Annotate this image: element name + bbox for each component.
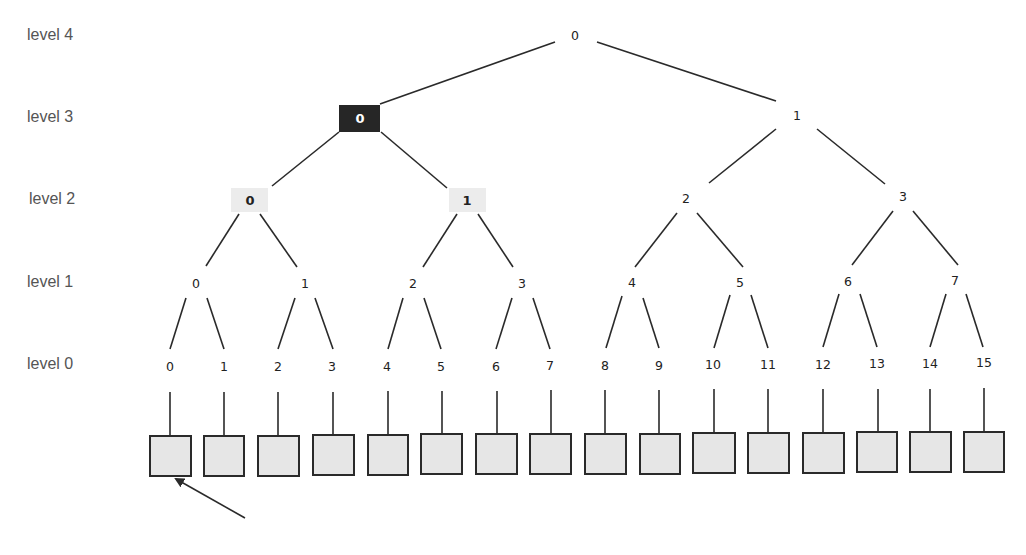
leaf-box-7 — [530, 434, 571, 474]
edge-l4-0-to-l3-0 — [380, 42, 555, 104]
edge-l1-6-to-l0-13 — [860, 294, 877, 347]
tree-node-l1-5: 5 — [736, 275, 744, 290]
tree-node-l0-6: 6 — [492, 359, 500, 374]
edge-l1-2-to-l0-5 — [424, 298, 441, 349]
edge-l3-0-to-l2-1 — [381, 132, 447, 188]
tree-node-l1-0: 0 — [192, 276, 200, 291]
leaf-box-5 — [421, 434, 462, 474]
level-label-0: level 0 — [27, 355, 73, 372]
edge-l2-3-to-l1-7 — [913, 211, 958, 265]
level-3-nodes: 0 1 — [355, 108, 801, 126]
level-4-nodes: 0 — [571, 28, 579, 43]
leaf-box-14 — [910, 432, 951, 472]
tree-node-l0-4: 4 — [383, 359, 391, 374]
leaf-box-8 — [585, 434, 626, 474]
tree-node-l0-11: 11 — [760, 357, 776, 372]
leaf-box-10 — [693, 433, 735, 473]
edge-l4-0-to-l3-1 — [597, 42, 776, 101]
edge-l1-1-to-l0-3 — [315, 298, 333, 349]
leaf-box-3 — [313, 435, 354, 475]
tree-node-l0-8: 8 — [601, 358, 609, 373]
edge-l3-1-to-l2-2 — [709, 129, 776, 183]
leaf-box-11 — [748, 433, 789, 473]
edge-l1-4-to-l0-8 — [606, 296, 622, 348]
tree-node-l0-2: 2 — [274, 359, 282, 374]
tree-node-l0-5: 5 — [437, 359, 445, 374]
edge-l1-1-to-l0-2 — [278, 298, 295, 349]
leaf-box-4 — [368, 435, 408, 475]
tree-node-l0-14: 14 — [922, 356, 938, 371]
edge-l1-2-to-l0-4 — [388, 298, 403, 349]
leaf-box-9 — [640, 434, 680, 474]
tree-diagram: level 4 level 3 level 2 level 1 level 0 — [0, 0, 1026, 555]
edge-l3-0-to-l2-0 — [272, 132, 339, 186]
edge-l1-7-to-l0-15 — [966, 294, 983, 347]
leaf-box-2 — [258, 436, 299, 476]
edge-l2-0-to-l1-0 — [206, 214, 239, 266]
level-label-3: level 3 — [27, 108, 73, 125]
tree-node-l1-4: 4 — [628, 275, 636, 290]
tree-node-l2-0: 0 — [245, 193, 254, 208]
tree-node-l0-0: 0 — [166, 359, 174, 374]
level-labels: level 4 level 3 level 2 level 1 level 0 — [27, 26, 75, 372]
level-1-nodes: 0 1 2 3 4 5 6 7 — [192, 273, 959, 291]
leaf-box-15 — [964, 432, 1004, 472]
level-label-1: level 1 — [27, 273, 73, 290]
tree-node-l2-2: 2 — [682, 191, 690, 206]
level-0-nodes: 0 1 2 3 4 5 6 7 8 9 10 11 12 13 14 15 — [166, 355, 992, 374]
tree-node-l1-6: 6 — [844, 274, 852, 289]
edge-l1-0-to-l0-0 — [170, 298, 186, 349]
tree-node-l1-1: 1 — [301, 276, 309, 291]
tree-node-l2-1: 1 — [462, 193, 471, 208]
level-label-4: level 4 — [27, 26, 73, 43]
edge-l3-1-to-l2-3 — [817, 129, 885, 184]
edge-l2-2-to-l1-5 — [697, 213, 743, 267]
edge-l2-3-to-l1-6 — [852, 211, 893, 265]
edge-l1-7-to-l0-14 — [930, 294, 946, 347]
edge-l1-3-to-l0-7 — [533, 298, 550, 349]
tree-node-l3-0: 0 — [355, 111, 364, 126]
edge-l2-2-to-l1-4 — [635, 213, 677, 267]
tree-node-l1-2: 2 — [409, 276, 417, 291]
edge-l2-1-to-l1-2 — [423, 214, 457, 267]
leaf-box-1 — [204, 436, 244, 476]
leaf-box-13 — [857, 432, 897, 472]
tree-node-l3-1: 1 — [793, 108, 801, 123]
edge-l2-1-to-l1-3 — [478, 214, 513, 267]
tree-edges — [170, 42, 984, 436]
tree-node-l1-3: 3 — [518, 276, 526, 291]
edge-l1-5-to-l0-11 — [751, 295, 768, 348]
leaf-box-0 — [150, 436, 191, 476]
tree-node-l4-0: 0 — [571, 28, 579, 43]
edge-l1-3-to-l0-6 — [496, 298, 512, 349]
leaf-box-6 — [476, 434, 517, 474]
tree-node-l0-10: 10 — [705, 357, 721, 372]
leaf-box-12 — [803, 433, 844, 473]
level-2-nodes: 0 1 2 3 — [245, 189, 907, 208]
tree-node-l0-3: 3 — [328, 359, 336, 374]
tree-node-l0-13: 13 — [869, 356, 885, 371]
tree-node-l0-1: 1 — [220, 359, 228, 374]
edge-l1-6-to-l0-12 — [823, 294, 839, 347]
tree-node-l0-12: 12 — [815, 357, 831, 372]
leaf-boxes — [150, 432, 1004, 476]
edge-l1-5-to-l0-10 — [714, 295, 730, 348]
tree-node-l1-7: 7 — [951, 273, 959, 288]
edge-l1-4-to-l0-9 — [643, 298, 659, 348]
level-label-2: level 2 — [29, 190, 75, 207]
edge-l1-0-to-l0-1 — [207, 298, 224, 349]
tree-node-l0-15: 15 — [976, 355, 992, 370]
tree-node-l0-7: 7 — [546, 358, 554, 373]
pointer-arrow-icon — [176, 479, 245, 518]
tree-node-l0-9: 9 — [655, 358, 663, 373]
tree-node-l2-3: 3 — [899, 189, 907, 204]
edge-l2-0-to-l1-1 — [260, 214, 297, 267]
